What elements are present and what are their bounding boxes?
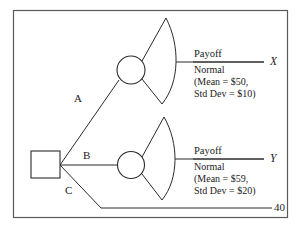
chance-node-lower <box>118 152 145 179</box>
fan-lower-arc <box>162 117 175 200</box>
fan-upper-top-line <box>142 18 166 61</box>
fan-upper-bottom-line <box>142 79 162 104</box>
fan-lower-top-line <box>142 117 164 157</box>
payoff-label-y: Payoff <box>194 145 222 157</box>
distribution-name-x: Normal <box>194 64 255 76</box>
terminal-value-40: 40 <box>274 201 285 213</box>
distribution-mean-y: (Mean = $59, <box>194 173 255 185</box>
fan-lower-bottom-line <box>142 174 162 200</box>
fan-upper-arc <box>162 18 176 104</box>
branch-label-a: A <box>74 92 82 104</box>
distribution-block-y: Normal (Mean = $59, Std Dev = $20) <box>194 161 255 196</box>
distribution-stddev-y: Std Dev = $20) <box>194 185 255 197</box>
outcome-variable-x: X <box>270 55 277 68</box>
payoff-label-x: Payoff <box>194 48 222 60</box>
outcome-variable-y: Y <box>270 152 276 165</box>
branch-label-c: C <box>65 184 72 196</box>
decision-tree-canvas <box>0 0 298 232</box>
distribution-block-x: Normal (Mean = $50, Std Dev = $10) <box>194 64 255 99</box>
distribution-name-y: Normal <box>194 161 255 173</box>
chance-node-upper <box>117 56 145 84</box>
distribution-stddev-x: Std Dev = $10) <box>194 88 255 100</box>
branch-label-b: B <box>83 149 90 161</box>
decision-tree-figure: A B C Payoff Normal (Mean = $50, Std Dev… <box>0 0 298 232</box>
distribution-mean-x: (Mean = $50, <box>194 76 255 88</box>
decision-node <box>31 151 60 178</box>
